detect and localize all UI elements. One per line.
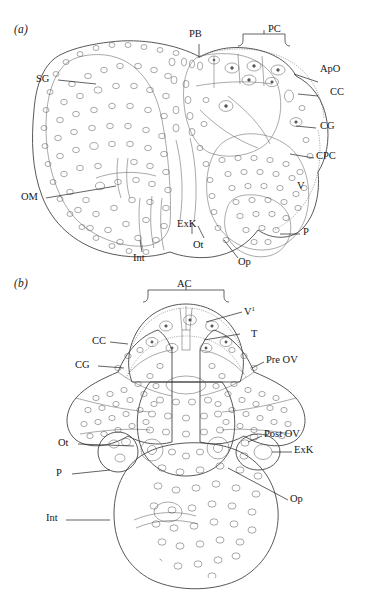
label-a-Op: Op bbox=[238, 257, 251, 268]
label-b-V1: V1 bbox=[244, 307, 255, 318]
label-a-ApO: ApO bbox=[320, 64, 340, 75]
panel-b-letter: (b) bbox=[14, 277, 28, 289]
label-a-V: V bbox=[297, 181, 305, 192]
figure-canvas: (a) PB PC SG ApO CC CG CPC V P OM Int Ex… bbox=[0, 0, 367, 603]
label-a-OM: OM bbox=[21, 192, 38, 203]
label-b-CG: CG bbox=[75, 360, 90, 371]
label-b-Op: Op bbox=[290, 494, 303, 505]
label-b-PreOV: Pre OV bbox=[266, 355, 298, 366]
label-a-CG: CG bbox=[320, 121, 335, 132]
label-a-PB: PB bbox=[189, 29, 202, 40]
label-a-PC: PC bbox=[268, 24, 281, 35]
label-b-V1-sup: 1 bbox=[252, 305, 256, 313]
panel-b-drawing bbox=[67, 304, 305, 589]
label-a-ExK: ExK bbox=[177, 219, 196, 230]
label-a-Ot: Ot bbox=[193, 240, 204, 251]
label-b-PostOV: Post OV bbox=[264, 429, 300, 440]
label-b-Ot: Ot bbox=[58, 438, 69, 449]
panel-a-letter: (a) bbox=[14, 23, 28, 35]
label-b-V1-text: V bbox=[244, 306, 252, 317]
label-b-CC: CC bbox=[92, 336, 106, 347]
label-b-ExK: ExK bbox=[294, 445, 313, 456]
label-a-SG: SG bbox=[36, 74, 49, 85]
panel-b-leaders bbox=[66, 285, 292, 520]
label-a-Int: Int bbox=[133, 253, 145, 264]
label-b-P: P bbox=[56, 468, 62, 479]
label-a-CPC: CPC bbox=[316, 151, 336, 162]
label-b-Int: Int bbox=[46, 513, 58, 524]
label-a-CC: CC bbox=[330, 87, 344, 98]
label-b-T: T bbox=[251, 329, 257, 340]
label-a-P: P bbox=[303, 227, 309, 238]
label-b-AC: AC bbox=[177, 279, 192, 290]
